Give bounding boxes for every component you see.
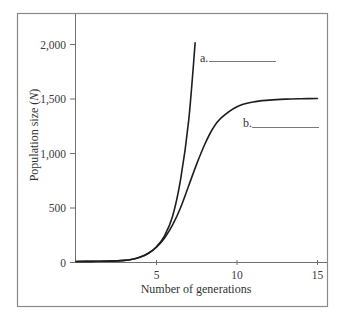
label-a-blank: a. <box>200 51 276 65</box>
label-b-blank: b. <box>243 116 319 130</box>
x-tick-label: 15 <box>312 269 324 281</box>
population-growth-chart: 0 500 1,000 1,500 2,000 5 10 15 Number o… <box>0 0 345 322</box>
y-tick-label: 1,500 <box>40 93 66 106</box>
curve-a-exponential <box>76 43 195 262</box>
x-tick-label: 5 <box>154 269 160 281</box>
y-ticks <box>70 45 76 263</box>
y-tick-label: 2,000 <box>40 39 66 52</box>
y-tick-label: 0 <box>60 257 66 269</box>
x-tick-labels: 5 10 15 <box>154 269 324 281</box>
label-b: b. <box>243 116 252 130</box>
y-axis-label-prefix: Population size ( <box>27 101 41 182</box>
x-tick-label: 10 <box>231 269 243 281</box>
x-axis-label: Number of generations <box>141 282 252 296</box>
y-axis-label-suffix: ) <box>27 89 41 93</box>
y-tick-label: 500 <box>49 202 67 214</box>
label-a: a. <box>200 51 208 65</box>
y-axis-label: Population size (N) <box>27 89 41 182</box>
y-tick-labels: 0 500 1,000 1,500 2,000 <box>40 39 66 269</box>
y-tick-label: 1,000 <box>40 148 66 161</box>
curve-b-logistic <box>76 99 318 262</box>
